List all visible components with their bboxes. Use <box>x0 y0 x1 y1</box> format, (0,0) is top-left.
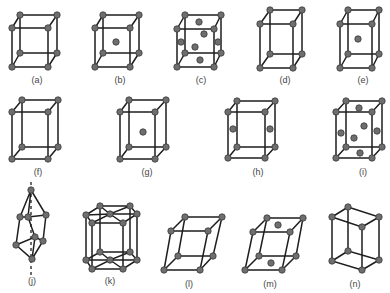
cell-label: (c) <box>196 75 207 85</box>
cell-j-rhombohedral: (j) <box>13 182 49 286</box>
cell-label: (d) <box>280 75 291 85</box>
cell-l-simple-monoclinic: (l) <box>161 214 225 289</box>
cell-label: (m) <box>263 279 277 289</box>
cell-m-base-centered-monoclinic: (m) <box>242 215 306 289</box>
cell-h-base-centered-orthorhombic: (h) <box>225 98 278 177</box>
cell-label: (h) <box>253 167 264 177</box>
cell-label: (j) <box>28 276 36 286</box>
cell-label: (l) <box>185 279 193 289</box>
cell-d-simple-tetragonal: (d) <box>257 7 305 85</box>
cell-c-face-centered-cubic: (c) <box>174 12 224 85</box>
cell-label: (e) <box>358 75 369 85</box>
cell-i-face-centered-orthorhombic: (i) <box>333 98 385 177</box>
cell-label: (n) <box>350 279 361 289</box>
cell-b-body-centered-cubic: (b) <box>92 12 142 85</box>
cell-label: (b) <box>115 75 126 85</box>
cell-k-hexagonal: (k) <box>83 203 140 286</box>
cell-g-body-centered-orthorhombic: (g) <box>117 97 169 177</box>
bravais-lattice-diagram: (a) (b) (c) (d) (e) <box>0 0 390 293</box>
cell-label: (a) <box>32 75 43 85</box>
cell-label: (k) <box>105 276 116 286</box>
cell-n-triclinic: (n) <box>329 204 382 289</box>
cell-label: (f) <box>34 167 43 177</box>
cell-label: (i) <box>359 167 367 177</box>
cell-f-simple-orthorhombic: (f) <box>9 97 61 177</box>
cell-a-simple-cubic: (a) <box>9 12 60 85</box>
cell-e-body-centered-tetragonal: (e) <box>337 7 382 85</box>
cell-label: (g) <box>142 167 153 177</box>
